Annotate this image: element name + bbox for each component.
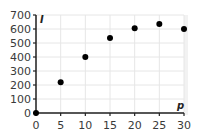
data-point [107,35,113,41]
x-tick-label: 10 [78,119,92,132]
y-tick-label: 100 [10,93,31,106]
y-axis-ticks: 0100200300400500600700 [10,9,36,120]
data-point [33,110,39,116]
x-axis-label: p [176,100,184,111]
y-tick-label: 500 [10,37,31,50]
y-axis-label: I [40,14,44,25]
data-point [82,54,88,60]
y-tick-label: 0 [24,107,31,120]
y-tick-label: 700 [10,9,31,22]
x-tick-label: 5 [57,119,64,132]
data-point [58,79,64,85]
y-tick-label: 300 [10,65,31,78]
x-tick-label: 15 [103,119,117,132]
y-tick-label: 400 [10,51,31,64]
grid-lines [36,15,188,115]
x-tick-label: 30 [177,119,191,132]
x-tick-label: 0 [33,119,40,132]
x-tick-label: 25 [152,119,166,132]
scatter-chart: 0100200300400500600700 051015202530 I p [0,0,200,138]
data-point [132,25,138,31]
x-tick-label: 20 [128,119,142,132]
x-axis-ticks: 051015202530 [33,113,192,132]
data-point [181,26,187,32]
data-point [156,21,162,27]
y-tick-label: 200 [10,79,31,92]
y-tick-label: 600 [10,23,31,36]
